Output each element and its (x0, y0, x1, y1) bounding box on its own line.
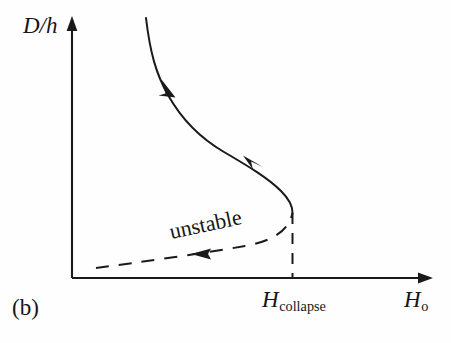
figure-panel-b: D/h Ho Hcollapse unstable (b) (0, 0, 451, 343)
y-axis-arrowhead-icon (67, 16, 78, 31)
x-axis-label-base: H (404, 287, 421, 312)
unstable-branch-arrow-icon (191, 249, 211, 260)
h-collapse-base: H (262, 287, 279, 312)
x-axis-label: Ho (404, 288, 428, 311)
stable-branch-arrow-2-icon (243, 156, 263, 170)
x-axis-label-subscript: o (421, 298, 428, 314)
panel-caption: (b) (12, 296, 39, 319)
plot-canvas (0, 0, 451, 343)
x-tick-label-h-collapse: Hcollapse (262, 288, 325, 311)
stable-branch-curve (146, 18, 293, 213)
h-collapse-subscript: collapse (279, 298, 326, 314)
y-axis-label: D/h (23, 14, 58, 37)
x-axis-arrowhead-icon (418, 272, 433, 283)
